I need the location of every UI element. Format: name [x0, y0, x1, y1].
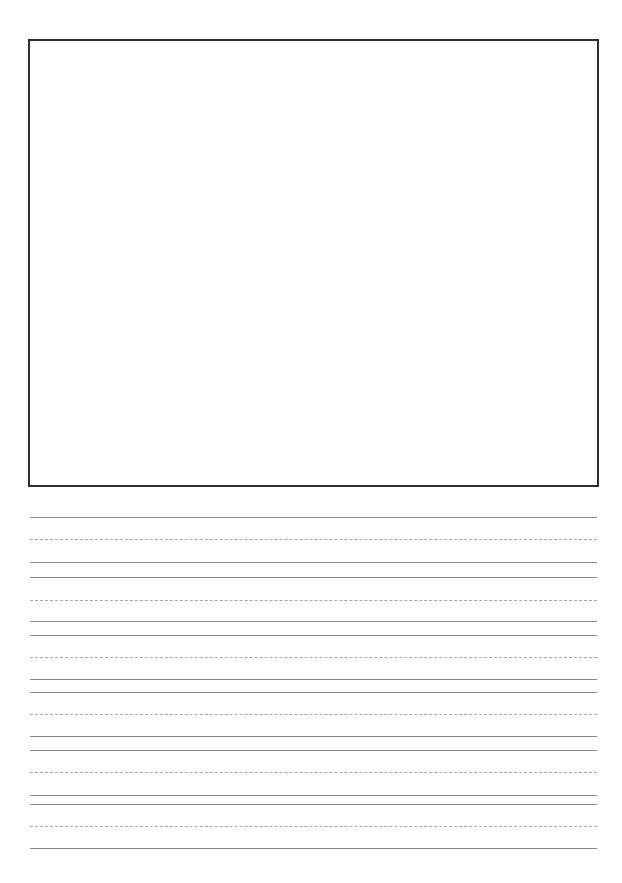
- top-line: [30, 635, 597, 636]
- top-line: [30, 750, 597, 751]
- baseline: [30, 621, 597, 622]
- top-line: [30, 804, 597, 805]
- midline-dashed: [30, 714, 597, 715]
- top-line: [30, 692, 597, 693]
- baseline: [30, 736, 597, 737]
- drawing-box: [28, 39, 599, 487]
- baseline: [30, 795, 597, 796]
- midline-dashed: [30, 600, 597, 601]
- baseline: [30, 562, 597, 563]
- baseline: [30, 848, 597, 849]
- midline-dashed: [30, 539, 597, 540]
- midline-dashed: [30, 657, 597, 658]
- midline-dashed: [30, 772, 597, 773]
- midline-dashed: [30, 826, 597, 827]
- top-line: [30, 577, 597, 578]
- baseline: [30, 679, 597, 680]
- top-line: [30, 517, 597, 518]
